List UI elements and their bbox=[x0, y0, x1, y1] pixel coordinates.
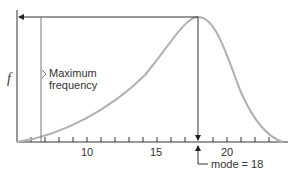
max-frequency-label: Maximum bbox=[49, 67, 97, 79]
x-ticks bbox=[31, 137, 269, 142]
x-tick-label-20: 20 bbox=[221, 146, 233, 158]
x-tick-label-15: 15 bbox=[150, 146, 162, 158]
y-axis-label: f bbox=[7, 71, 13, 86]
max-frequency-label-2: frequency bbox=[49, 79, 98, 91]
mode-label: mode = 18 bbox=[211, 158, 263, 170]
mode-diagram: 10 15 20 Maximum frequency f mode = 18 bbox=[0, 0, 295, 174]
x-tick-label-10: 10 bbox=[81, 146, 93, 158]
brace-icon bbox=[42, 70, 46, 78]
